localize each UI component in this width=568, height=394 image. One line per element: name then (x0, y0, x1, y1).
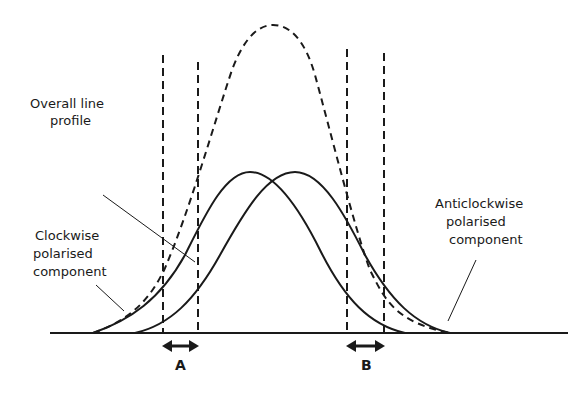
region-a-arrow-icon (162, 340, 199, 352)
anticlockwise-label-line3: component (449, 232, 523, 247)
anticlockwise-label-line2: polarised (446, 214, 506, 229)
region-a-label: A (175, 357, 186, 373)
clockwise-leader (96, 285, 124, 311)
overall-profile-label-line2: profile (50, 113, 91, 128)
clockwise-label-line1: Clockwise (35, 228, 99, 243)
line-profile-diagram: Overall line profile Clockwise polarised… (0, 0, 568, 394)
overall-profile-leader (103, 195, 195, 262)
clockwise-label-line2: polarised (33, 246, 93, 261)
overall-profile-label-line1: Overall line (30, 96, 104, 111)
overall-line-profile-curve (93, 25, 450, 333)
anticlockwise-label-line1: Anticlockwise (435, 196, 523, 211)
anticlockwise-leader (448, 260, 476, 321)
clockwise-label-line3: component (33, 264, 107, 279)
clockwise-component-curve (93, 172, 405, 333)
region-b-label: B (361, 357, 372, 373)
region-b-arrow-icon (346, 340, 385, 352)
